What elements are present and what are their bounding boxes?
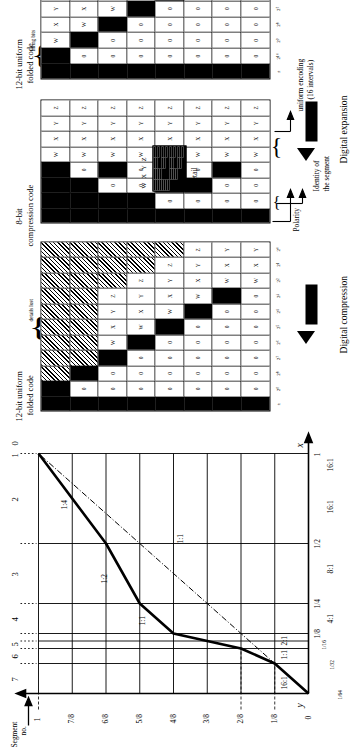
bit-label: 2⁷ xyxy=(272,350,282,366)
cell-bit-1 xyxy=(184,303,213,318)
y-axis-label: y xyxy=(294,703,304,707)
detail-bits-label: W X Y Z xyxy=(140,156,146,188)
cell-bit-0: 0 xyxy=(184,318,213,333)
table-row: 000WXYZ xyxy=(127,242,156,410)
cell-bit-0: 0 xyxy=(155,334,184,349)
detail-interval xyxy=(161,146,163,157)
table-row xyxy=(41,242,70,410)
cell-bit-z: Z xyxy=(127,272,156,287)
cell-bit-0: 0 xyxy=(212,334,241,349)
cell-bit-x: X xyxy=(127,130,156,146)
cell-polarity xyxy=(155,396,184,410)
x-tick-1-16: 1/16 xyxy=(321,640,326,649)
bit-label: 2³ xyxy=(272,288,282,304)
cell-bit-w: W xyxy=(41,146,70,162)
cell-details-lost xyxy=(70,334,99,349)
cell-bit-x: X xyxy=(127,303,156,318)
cell-polarity xyxy=(98,208,127,222)
cell-bit-z: Z xyxy=(155,256,184,271)
cell-bit-z: Z xyxy=(98,287,127,302)
y-tick-2-8: 2/8 xyxy=(236,714,243,723)
cell-bit-0: 0 xyxy=(184,47,213,63)
cell-polarity xyxy=(41,63,70,78)
cell-bit-y: Y xyxy=(98,303,127,318)
bit-label: 2⁸ xyxy=(272,365,282,381)
cell-bit-0: 0 xyxy=(241,192,270,208)
cell-bit-0: 0 xyxy=(127,31,156,47)
cell-bit-0: 0 xyxy=(184,31,213,47)
cell-bit-0: 0 xyxy=(98,177,127,193)
cell-details-lost xyxy=(41,365,70,380)
x-tick-1-64: 1/64 xyxy=(337,690,342,699)
slope-label-1-2: 1:2 xyxy=(100,574,107,583)
cell-bit-x: X xyxy=(184,272,213,287)
cell-details-lost xyxy=(41,318,70,333)
segment-number-1: 1 xyxy=(10,453,19,457)
cell-polarity xyxy=(41,208,70,222)
cell-polarity xyxy=(155,63,184,78)
left-table-title-line1: 12-bit uniform xyxy=(14,371,23,421)
cell-bit-0: 0 xyxy=(241,287,270,302)
cell-bit-0: 0 xyxy=(212,365,241,380)
slope-label-diag: 1:1 xyxy=(176,534,183,543)
cell-polarity xyxy=(155,208,184,222)
cell-bit-0: 0 xyxy=(155,380,184,395)
cell-bit-1 xyxy=(70,31,99,47)
cell-bit-w: W xyxy=(70,146,99,162)
table-row: 00WXYZ xyxy=(212,100,241,222)
cell-bit-y: Y xyxy=(41,115,70,131)
table-row: 000000WXYZ xyxy=(212,0,241,78)
cell-bit-y: Y xyxy=(41,0,70,16)
cell-bit-0: 0 xyxy=(127,349,156,364)
detail-interval xyxy=(159,168,161,179)
cell-details-lost xyxy=(41,349,70,364)
middle-table-title-line2: compression code xyxy=(25,184,34,246)
bit-label: 2⁹ xyxy=(272,32,282,48)
segment-number-5: 5 xyxy=(10,642,19,646)
cell-bit-0: 0 xyxy=(241,177,270,193)
cell-bit-0: 0 xyxy=(155,365,184,380)
detail-interval xyxy=(153,146,155,157)
cell-bit-1 xyxy=(41,177,70,193)
cell-details-lost xyxy=(41,272,70,287)
cell-bit-0: 0 xyxy=(241,365,270,380)
cell-bit-0: 0 xyxy=(155,16,184,32)
cell-bit-0: 0 xyxy=(212,31,241,47)
compression-characteristic-graph: y x Segment no. 7 6 5 4 3 2 1 0 1 7/8 6/… xyxy=(8,433,353,733)
table-row: 000000WXY xyxy=(212,242,241,410)
cell-details-lost xyxy=(155,242,184,256)
cell-bit-x: X xyxy=(98,318,127,333)
cell-polarity xyxy=(127,208,156,222)
cell-bit-y: Y xyxy=(70,115,99,131)
cell-details-lost xyxy=(70,287,99,302)
cell-bit-w: W xyxy=(127,318,156,333)
detail-interval xyxy=(175,168,177,179)
cell-details-lost xyxy=(41,287,70,302)
cell-polarity xyxy=(241,208,270,222)
y-tick-4-8: 4/8 xyxy=(169,714,176,723)
y-tick-0: 0 xyxy=(304,715,311,719)
cell-bit-x: X xyxy=(41,16,70,32)
x-tick-1-32: 1/32 xyxy=(329,660,334,669)
digital-expansion-label: Digital expansion xyxy=(338,95,348,163)
cell-bit-x: X xyxy=(70,130,99,146)
table-row: 0000000WXYZ xyxy=(241,0,270,78)
digital-compression-arrow xyxy=(292,284,332,346)
slope-label-1-1b: 1:1 xyxy=(280,650,287,659)
table-row: 00000WXYZ xyxy=(184,0,213,78)
cell-bit-z: Z xyxy=(98,100,127,115)
table-row: 000WXYZ xyxy=(241,100,270,222)
detail-box xyxy=(152,145,186,191)
cell-bit-z: Z xyxy=(212,100,241,115)
detail-interval xyxy=(167,179,169,190)
slope-label-16-1a: 16:1 xyxy=(280,676,287,689)
cell-bit-y: Y xyxy=(184,256,213,271)
cell-details-lost xyxy=(41,303,70,318)
segment-number-4: 4 xyxy=(10,617,19,621)
segment-caption-line2: no. xyxy=(19,726,26,735)
cell-bit-w: W xyxy=(241,272,270,287)
detail-label: Detail xyxy=(190,167,197,185)
cell-bit-w: W xyxy=(155,303,184,318)
cell-bit-0: 0 xyxy=(241,334,270,349)
segment-number-2: 2 xyxy=(10,497,19,501)
